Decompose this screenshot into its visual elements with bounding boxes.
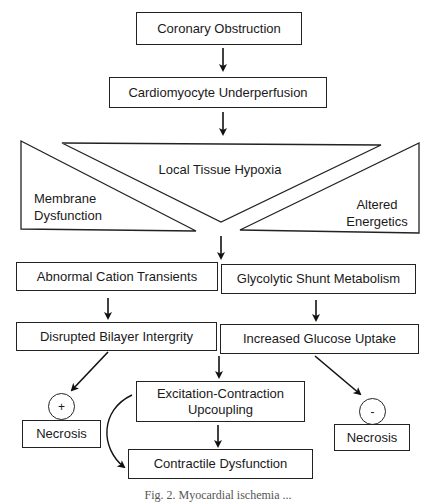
node-label: Necrosis — [347, 430, 398, 446]
node-increased-glucose-uptake: Increased Glucose Uptake — [220, 324, 419, 354]
node-coronary-obstruction: Coronary Obstruction — [136, 12, 302, 45]
node-label-line2: Dysfunction — [34, 207, 114, 224]
node-cardiomyocyte-underperfusion: Cardiomyocyte Underperfusion — [109, 77, 327, 108]
arrow-glucose-to-necrosis-right — [315, 356, 360, 394]
node-label: Abnormal Cation Transients — [37, 269, 197, 285]
plus-sign-icon: + — [48, 393, 75, 420]
figure-caption: Fig. 2. Myocardial ischemia ... — [0, 488, 436, 503]
node-necrosis-right: Necrosis — [334, 424, 410, 451]
node-membrane-dysfunction: Membrane Dysfunction — [34, 190, 114, 224]
node-label: Necrosis — [36, 426, 87, 442]
node-contractile-dysfunction: Contractile Dysfunction — [128, 449, 313, 479]
arrow-bilayer-to-necrosis-left — [72, 352, 108, 390]
node-disrupted-bilayer-integrity: Disrupted Bilayer Intergrity — [16, 322, 217, 351]
node-label: Disrupted Bilayer Intergrity — [40, 329, 193, 345]
node-altered-energetics: Altered Energetics — [340, 196, 414, 230]
node-abnormal-cation-transients: Abnormal Cation Transients — [16, 262, 218, 291]
node-local-tissue-hypoxia: Local Tissue Hypoxia — [140, 161, 300, 178]
node-label-line1: Altered — [340, 196, 414, 213]
modifier-sign: - — [371, 405, 375, 419]
node-label-line1: Excitation-Contraction — [157, 386, 284, 402]
node-label-line2: Energetics — [340, 213, 414, 230]
node-label-line1: Membrane — [34, 190, 114, 207]
node-glycolytic-shunt-metabolism: Glycolytic Shunt Metabolism — [221, 264, 416, 294]
modifier-sign: + — [58, 400, 65, 414]
node-label: Cardiomyocyte Underperfusion — [128, 85, 307, 101]
node-necrosis-left: Necrosis — [22, 420, 101, 448]
node-label: Contractile Dysfunction — [154, 456, 288, 472]
node-excitation-contraction-upcoupling: Excitation-Contraction Upcoupling — [136, 381, 305, 422]
node-label-line2: Upcoupling — [188, 402, 253, 418]
node-label: Glycolytic Shunt Metabolism — [237, 271, 400, 287]
node-label: Coronary Obstruction — [157, 21, 281, 37]
minus-sign-icon: - — [359, 398, 386, 425]
node-label: Increased Glucose Uptake — [243, 331, 396, 347]
